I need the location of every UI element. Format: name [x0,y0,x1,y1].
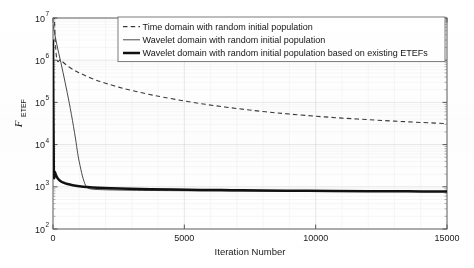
y-tick-label: 10 [35,14,45,24]
y-tick-label: 10 [35,225,45,235]
figure-container: 102103104105106107 050001000015000 Itera… [0,0,474,268]
x-axis-title: Iteration Number [215,246,286,257]
legend[interactable]: Time domain with random initial populati… [118,17,445,62]
y-tick-label: 10 [35,98,45,108]
x-tick-label: 0 [50,233,55,243]
legend-label: Wavelet domain with random initial popul… [143,48,429,58]
y-tick-label-exponent: 3 [46,179,50,186]
y-tick-label-exponent: 7 [46,10,50,17]
y-axis-title-main: F [12,120,24,128]
x-tick-label: 5000 [174,233,194,243]
y-tick-label-exponent: 5 [46,94,50,101]
y-tick-label-exponent: 6 [46,52,50,59]
legend-label: Wavelet domain with random initial popul… [143,35,326,45]
line-chart: 102103104105106107 050001000015000 Itera… [0,0,474,268]
x-axis-title-text: Iteration Number [215,246,286,257]
y-tick-label-exponent: 4 [46,137,50,144]
x-tick-label: 15000 [434,233,459,243]
y-tick-label: 10 [35,182,45,192]
y-tick-label-exponent: 2 [46,221,50,228]
y-axis-title-sub: ETEF [20,99,27,117]
x-tick-label: 10000 [303,233,328,243]
legend-label: Time domain with random initial populati… [143,22,313,32]
y-tick-label: 10 [35,140,45,150]
y-tick-label: 10 [35,56,45,66]
